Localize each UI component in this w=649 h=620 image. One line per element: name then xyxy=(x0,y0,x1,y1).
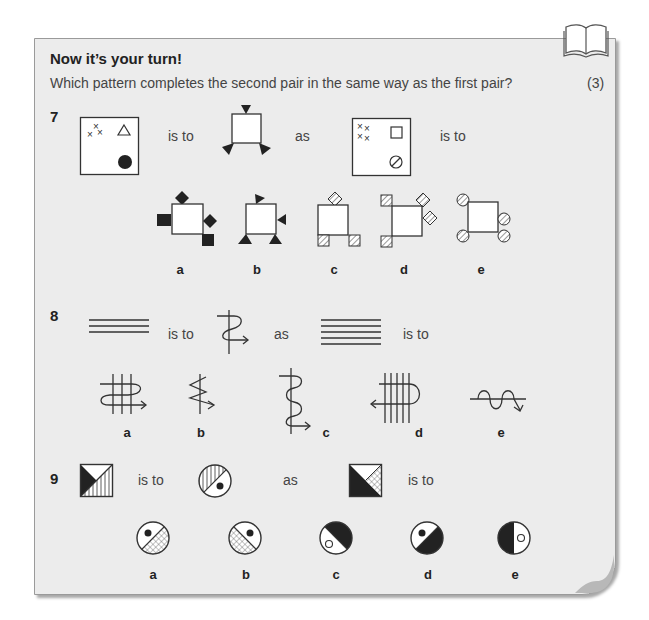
q8-option-e-figure[interactable] xyxy=(470,388,528,416)
q7-figure-2 xyxy=(220,105,270,160)
q8-option-c-label[interactable]: c xyxy=(316,425,336,440)
q9-figure-2 xyxy=(198,464,234,500)
q7-option-e-label[interactable]: e xyxy=(471,262,491,277)
q9-option-c-figure[interactable] xyxy=(319,521,355,557)
q7-option-e-figure[interactable] xyxy=(455,192,513,250)
svg-text:×: × xyxy=(97,127,103,138)
q7-option-a-label[interactable]: a xyxy=(170,262,190,277)
q8-figure-3 xyxy=(321,318,383,348)
instruction-text: Which pattern completes the second pair … xyxy=(50,75,512,91)
book-icon xyxy=(563,23,609,59)
q9-option-d-figure[interactable] xyxy=(410,521,446,557)
q7-option-d-figure[interactable] xyxy=(380,191,442,251)
q8-option-a-label[interactable]: a xyxy=(117,425,137,440)
q9-option-d-label[interactable]: d xyxy=(418,567,438,582)
q7-option-b-label[interactable]: b xyxy=(247,262,267,277)
q8-option-a-figure[interactable] xyxy=(98,374,150,416)
q7-option-a-figure[interactable] xyxy=(156,190,221,250)
q7-option-d-label[interactable]: d xyxy=(394,262,414,277)
q9-figure-3 xyxy=(349,464,385,500)
q8-as-label: as xyxy=(274,326,289,342)
q8-option-d-label[interactable]: d xyxy=(409,425,429,440)
q8-option-d-figure[interactable] xyxy=(369,373,425,425)
q8-figure-1 xyxy=(89,318,151,340)
q9-option-a-figure[interactable] xyxy=(136,521,172,557)
q8-option-b-figure[interactable] xyxy=(188,374,220,416)
q7-option-c-label[interactable]: c xyxy=(324,262,344,277)
q8-figure-2 xyxy=(216,310,256,360)
q7-option-c-figure[interactable] xyxy=(315,191,365,251)
svg-text:×: × xyxy=(357,131,363,142)
section-title: Now it’s your turn! xyxy=(50,50,182,67)
q8-is-to-label-2: is to xyxy=(403,326,429,342)
q8-option-c-figure[interactable] xyxy=(278,368,314,436)
question-8-number: 8 xyxy=(50,307,58,324)
q9-is-to-label-2: is to xyxy=(408,472,434,488)
q7-figure-1: × × × xyxy=(80,117,140,177)
q9-option-c-label[interactable]: c xyxy=(326,567,346,582)
q8-option-b-label[interactable]: b xyxy=(191,425,211,440)
question-9-number: 9 xyxy=(50,470,58,487)
q7-option-b-figure[interactable] xyxy=(237,194,292,249)
q7-is-to-label-2: is to xyxy=(440,128,466,144)
q9-option-e-figure[interactable] xyxy=(497,521,533,557)
q9-option-e-label[interactable]: e xyxy=(505,567,525,582)
q9-option-b-label[interactable]: b xyxy=(236,567,256,582)
q9-option-b-figure[interactable] xyxy=(228,521,264,557)
question-7-number: 7 xyxy=(50,108,58,125)
page-curl-decoration xyxy=(575,555,615,594)
q8-option-e-label[interactable]: e xyxy=(491,425,511,440)
q7-as-label: as xyxy=(295,128,310,144)
svg-text:×: × xyxy=(364,133,370,144)
q7-is-to-label-1: is to xyxy=(168,128,194,144)
q9-is-to-label-1: is to xyxy=(138,472,164,488)
q9-figure-1 xyxy=(80,464,116,500)
q8-is-to-label-1: is to xyxy=(168,326,194,342)
q9-option-a-label[interactable]: a xyxy=(143,567,163,582)
q9-as-label: as xyxy=(283,472,298,488)
q7-figure-3: × × × × xyxy=(352,118,412,178)
marks-label: (3) xyxy=(587,75,604,91)
svg-text:×: × xyxy=(87,129,93,140)
